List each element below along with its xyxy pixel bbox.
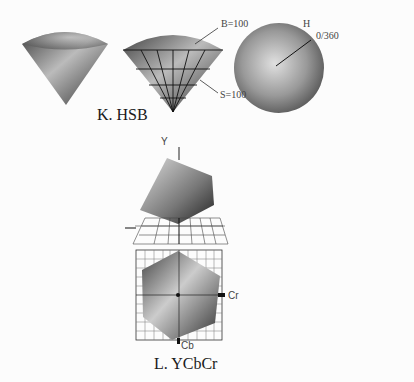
ycbcr-caption: L. YCbCr [154,355,217,373]
saturation-label: S=100 [220,89,246,100]
brightness-label: B=100 [221,18,248,29]
y-axis-label: Y [161,136,168,147]
hsb-hue-disk [234,23,324,113]
hsb-cone-solid [22,32,108,105]
ycbcr-cube [140,147,214,224]
cb-axis-label: Cb [181,340,194,351]
hsb-cone-grid [123,28,223,112]
color-models-diagram [0,0,414,382]
hsb-caption: K. HSB [97,106,148,124]
hue-range-label: 0/360 [316,30,339,41]
cr-axis-label: Cr [228,290,239,301]
hue-label: H [303,18,310,29]
ycbcr-hexagon-plot [136,250,225,344]
